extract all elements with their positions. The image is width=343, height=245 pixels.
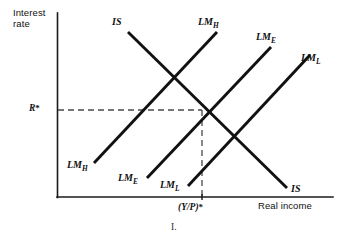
lm-equilibrium-subscript-bottom: E <box>133 177 138 186</box>
lm-equilibrium-subscript-top: E <box>271 36 276 45</box>
y-axis-title-line2: rate <box>13 19 45 30</box>
lm-high-subscript-top: H <box>213 21 219 30</box>
lm-low-label-bottom: LML <box>160 179 180 194</box>
lm-high-label-bottom: LMH <box>67 159 88 174</box>
lm-equilibrium-curve <box>147 47 271 178</box>
is-lm-figure: Interest rate Real income R* (Y/P)* IS I… <box>0 0 343 245</box>
lm-low-base-top: LM <box>301 52 316 63</box>
y-over-p-star-superscript: * <box>199 202 204 212</box>
is-curve-label-bottom: IS <box>291 183 300 195</box>
x-axis-title: Real income <box>258 201 312 212</box>
lm-low-subscript-top: L <box>316 57 321 66</box>
lm-equilibrium-base-bottom: LM <box>118 172 133 183</box>
lm-high-curve <box>94 32 217 163</box>
y-axis-title: Interest rate <box>13 8 45 30</box>
lm-equilibrium-label-top: LME <box>256 31 276 46</box>
lm-low-curve <box>188 55 310 186</box>
lm-high-base-bottom: LM <box>67 159 82 170</box>
lm-low-label-top: LML <box>301 52 321 67</box>
lm-equilibrium-base-top: LM <box>256 31 271 42</box>
lm-low-base-bottom: LM <box>160 179 175 190</box>
lm-high-label-top: LMH <box>198 16 219 31</box>
y-over-p-star-base: (Y/P) <box>178 202 199 212</box>
lm-high-subscript-bottom: H <box>82 164 88 173</box>
lm-low-subscript-bottom: L <box>175 184 180 193</box>
lm-equilibrium-label-bottom: LME <box>118 172 138 187</box>
x-axis-tick-label-y-over-p-star: (Y/P)* <box>178 202 203 213</box>
r-star-superscript: * <box>35 103 40 113</box>
y-axis-tick-label-r-star: R* <box>29 103 40 114</box>
lm-high-base-top: LM <box>198 16 213 27</box>
is-curve-label-top: IS <box>112 16 121 28</box>
figure-caption: I. <box>171 222 177 233</box>
